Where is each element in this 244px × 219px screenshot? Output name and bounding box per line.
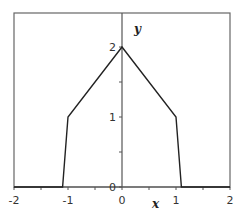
x-tick-label: 0	[119, 194, 126, 207]
x-axis-title: x	[151, 197, 160, 211]
line-chart: -2-1012 012 x y	[0, 0, 244, 219]
x-tick-label: 2	[227, 194, 234, 207]
x-tick-labels: -2-1012	[9, 194, 234, 207]
x-tick-label: -2	[9, 194, 20, 207]
y-tick-label: 2	[109, 41, 116, 54]
y-tick-label: 0	[109, 181, 116, 194]
y-tick-labels: 012	[109, 41, 116, 194]
x-tick-label: -1	[63, 194, 74, 207]
x-tick-label: 1	[173, 194, 180, 207]
y-tick-label: 1	[109, 111, 116, 124]
y-axis-title: y	[133, 22, 142, 36]
